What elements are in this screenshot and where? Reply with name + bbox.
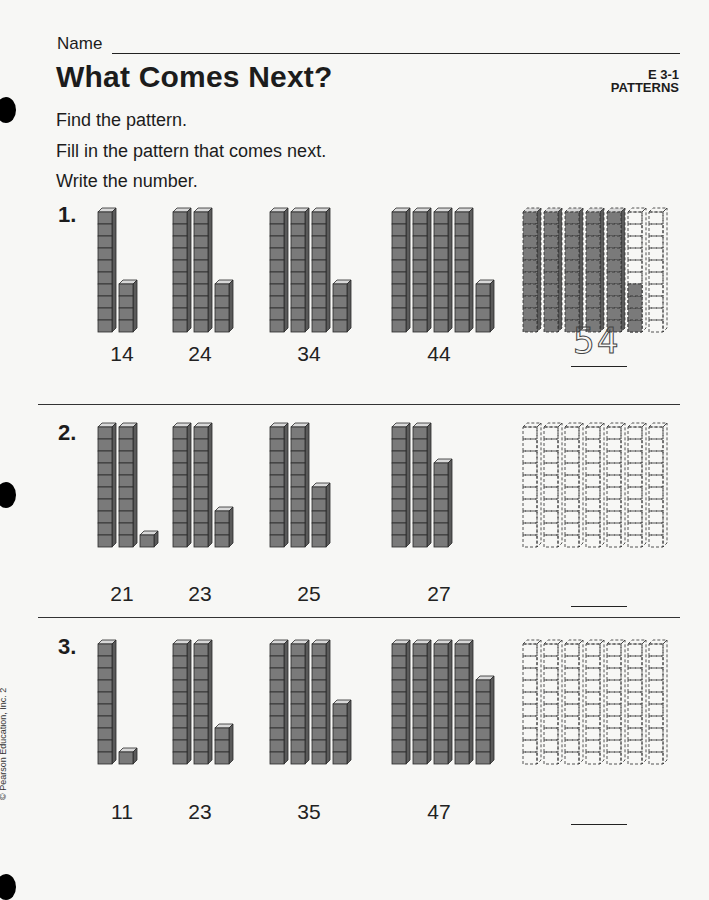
problem-3-value-3: 35 bbox=[279, 800, 339, 824]
problem-1-value-4: 44 bbox=[409, 342, 469, 366]
problem-2-answer-field[interactable] bbox=[571, 606, 627, 607]
problem-2-model-1 bbox=[96, 417, 171, 557]
problem-2-model-2 bbox=[171, 417, 246, 557]
problem-3-answer-field[interactable] bbox=[571, 824, 627, 825]
lesson-category: PATTERNS bbox=[611, 81, 679, 94]
problem-1-value-1: 14 bbox=[92, 342, 152, 366]
problem-3-value-2: 23 bbox=[170, 800, 230, 824]
problem-3-model-3 bbox=[268, 634, 364, 774]
problem-2-value-1: 21 bbox=[92, 582, 152, 606]
problem-3-value-1: 11 bbox=[92, 800, 152, 824]
instruction-2: Fill in the pattern that comes next. bbox=[56, 141, 326, 162]
divider bbox=[38, 617, 680, 618]
problem-1-model-4 bbox=[390, 202, 507, 342]
problem-1-value-2: 24 bbox=[170, 342, 230, 366]
name-label: Name bbox=[57, 34, 102, 54]
binder-hole bbox=[0, 97, 16, 123]
problem-1-model-2 bbox=[171, 202, 246, 342]
problem-1-model-1 bbox=[96, 202, 150, 342]
problem-3-model-2 bbox=[171, 634, 246, 774]
page-title: What Comes Next? bbox=[56, 60, 333, 94]
copyright: © Pearson Education, Inc. 2 bbox=[0, 688, 8, 800]
divider bbox=[38, 404, 680, 405]
problem-3-answer-model[interactable] bbox=[521, 634, 680, 774]
problem-2-value-3: 25 bbox=[279, 582, 339, 606]
problem-3-value-4: 47 bbox=[409, 800, 469, 824]
problem-1-answer-field[interactable] bbox=[571, 366, 627, 367]
instruction-3: Write the number. bbox=[56, 171, 198, 192]
problem-2-model-4 bbox=[390, 417, 465, 557]
instruction-1: Find the pattern. bbox=[56, 110, 187, 131]
problem-1-model-3 bbox=[268, 202, 364, 342]
problem-3-model-1 bbox=[96, 634, 150, 774]
problem-2-value-4: 27 bbox=[409, 582, 469, 606]
problem-1-value-3: 34 bbox=[279, 342, 339, 366]
problem-2-value-2: 23 bbox=[170, 582, 230, 606]
problem-1-traced-answer: 54 bbox=[573, 320, 620, 361]
problem-3-number: 3. bbox=[58, 634, 76, 660]
problem-2-number: 2. bbox=[58, 420, 76, 446]
problem-1-number: 1. bbox=[58, 202, 76, 228]
lesson-code: E 3-1 PATTERNS bbox=[611, 68, 679, 94]
binder-hole bbox=[0, 874, 16, 900]
binder-hole bbox=[0, 482, 16, 508]
problem-3-model-4 bbox=[390, 634, 507, 774]
name-field[interactable] bbox=[112, 53, 680, 54]
problem-2-answer-model[interactable] bbox=[521, 417, 680, 557]
problem-2-model-3 bbox=[268, 417, 343, 557]
